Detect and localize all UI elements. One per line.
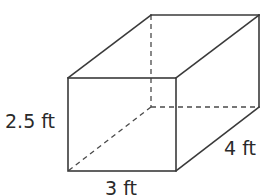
rectangular-prism-diagram: 2.5 ft 3 ft 4 ft [0,0,279,196]
top-edge-left-depth [68,15,151,78]
front-face [68,78,176,171]
top-edge-right-depth [176,15,259,78]
width-label: 3 ft [105,177,137,196]
hidden-edge-depth-bottom [68,107,151,171]
height-label: 2.5 ft [5,110,55,132]
depth-label: 4 ft [224,137,256,159]
dimension-labels: 2.5 ft 3 ft 4 ft [5,110,256,196]
